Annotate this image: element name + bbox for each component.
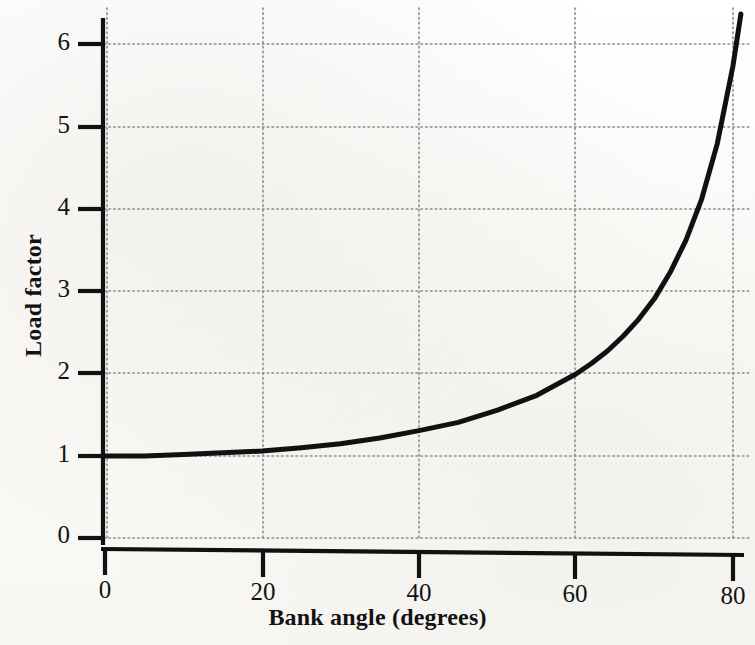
load-factor-curve — [105, 14, 741, 456]
y-tick-label-6: 6 — [30, 28, 70, 56]
figure-canvas: 6 5 4 3 2 1 0 0 20 40 60 80 Load factor … — [0, 0, 755, 645]
x-axis-title: Bank angle (degrees) — [0, 604, 755, 631]
y-tick-label-0: 0 — [30, 521, 70, 549]
x-gridlines — [107, 8, 733, 540]
load-factor-chart — [0, 0, 755, 645]
x-tick-label-40: 40 — [389, 579, 449, 607]
y-tick-label-1: 1 — [30, 440, 70, 468]
x-tick-label-0: 0 — [75, 576, 135, 604]
y-tick-label-5: 5 — [30, 111, 70, 139]
x-tick-label-20: 20 — [233, 578, 293, 606]
y-axis-title: Load factor — [20, 216, 47, 376]
x-axis-line — [101, 549, 744, 555]
y-gridlines — [104, 44, 750, 538]
